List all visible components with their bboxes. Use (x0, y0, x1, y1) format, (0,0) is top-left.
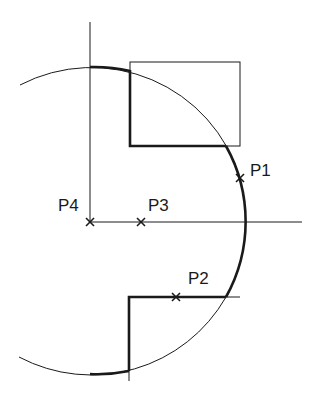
circle-arc-thin-lower (19, 297, 226, 375)
profile-upper-notch (130, 70, 226, 146)
point-label-p4: P4 (58, 197, 79, 214)
point-label-p1: P1 (250, 162, 271, 179)
circle-arc-thick-top (90, 67, 130, 71)
profile-lower-notch (129, 297, 226, 371)
point-label-p3: P3 (148, 197, 169, 214)
point-label-p2: P2 (188, 270, 209, 287)
construction-rectangle (130, 62, 240, 146)
circle-arc-thick-bottom (90, 371, 129, 374)
